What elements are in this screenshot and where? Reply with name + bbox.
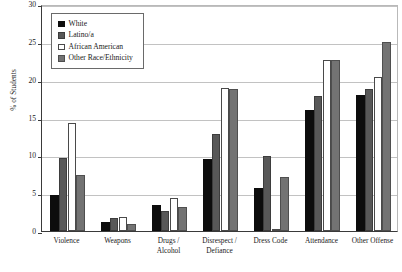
bar-white (203, 159, 212, 231)
bar-african-american (68, 123, 77, 231)
bar-group (297, 6, 348, 231)
legend-swatch-latino (58, 32, 65, 39)
legend: White Latino/a African American Other Ra… (51, 13, 144, 69)
legend-item-latino: Latino/a (58, 30, 133, 42)
bar-african-american (119, 217, 128, 231)
legend-label-other-race: Other Race/Ethnicity (69, 54, 133, 62)
legend-item-white: White (58, 18, 133, 30)
y-tick-label: 25 (14, 39, 36, 47)
bar-african-american (374, 77, 383, 231)
y-tick-mark (38, 233, 42, 234)
bar-african-american (221, 88, 230, 231)
y-tick-label: 30 (14, 1, 36, 9)
bar-group (348, 6, 399, 231)
legend-item-other-race: Other Race/Ethnicity (58, 53, 133, 65)
y-tick-label: 10 (14, 152, 36, 160)
y-tick-label: 15 (14, 115, 36, 123)
legend-label-african-american: African American (69, 43, 124, 51)
legend-swatch-white (58, 21, 65, 28)
bar-latino (365, 89, 374, 231)
y-tick-label: 0 (14, 228, 36, 236)
x-axis-tick-labels: ViolenceWeaponsDrugs /AlcoholDisrespect … (41, 236, 398, 272)
bar-latino (212, 134, 221, 231)
bar-other-race (382, 42, 391, 231)
bar-other-race (127, 224, 136, 231)
legend-item-african-american: African American (58, 41, 133, 53)
bar-latino (59, 158, 68, 231)
y-axis-tick-labels: 051015202530 (14, 0, 36, 240)
bar-latino (161, 211, 170, 231)
bar-white (305, 110, 314, 231)
y-tick-label: 20 (14, 77, 36, 85)
bar-chart: % of Students 051015202530 ViolenceWeapo… (0, 0, 402, 272)
bar-group (195, 6, 246, 231)
bar-african-american (272, 229, 281, 231)
bar-latino (263, 156, 272, 231)
x-tick-label: Other Offense (341, 236, 402, 246)
bar-white (254, 188, 263, 231)
bar-white (101, 222, 110, 231)
bar-other-race (76, 175, 85, 231)
y-tick-label: 5 (14, 190, 36, 198)
bar-other-race (280, 177, 289, 231)
bar-latino (314, 96, 323, 231)
legend-label-white: White (69, 20, 88, 28)
bar-other-race (178, 207, 187, 231)
bar-other-race (331, 60, 340, 231)
bar-group (144, 6, 195, 231)
bar-other-race (229, 89, 238, 231)
legend-label-latino: Latino/a (69, 31, 94, 39)
legend-swatch-other-race (58, 55, 65, 62)
bar-white (152, 205, 161, 231)
bar-white (356, 95, 365, 231)
bar-white (50, 195, 59, 231)
legend-swatch-african-american (58, 44, 65, 51)
bar-african-american (170, 198, 179, 231)
bar-group (246, 6, 297, 231)
bar-latino (110, 218, 119, 231)
bar-african-american (323, 60, 332, 231)
